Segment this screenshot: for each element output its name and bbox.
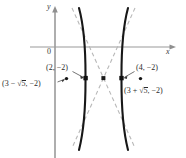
origin-label: 0 — [47, 48, 51, 56]
left-focus-prefix: (3 − — [2, 79, 15, 88]
left-focus-label: (3 − √5, −2) — [2, 80, 41, 88]
y-axis-label: y — [47, 3, 51, 11]
left-vertex-label: (2, −2) — [46, 64, 68, 72]
leader-arrow-right-vertex — [123, 76, 127, 79]
right-focus-label: (3 + √5, −2) — [124, 87, 163, 95]
vertex-marker-left — [83, 76, 87, 80]
hyperbola-figure: y x 0 (2, −2) (4, −2) (3 − √5, −2) (3 + … — [0, 0, 186, 158]
focus-dot-right — [139, 77, 142, 80]
right-focus-suffix: , −2) — [148, 86, 163, 95]
x-axis-arrowhead — [170, 44, 177, 49]
left-focus-radical: √5 — [17, 80, 25, 88]
left-focus-suffix: , −2) — [26, 79, 41, 88]
right-vertex-label: (4, −2) — [136, 64, 158, 72]
leader-right-vertex — [125, 72, 135, 78]
vertex-marker-right — [119, 76, 123, 80]
right-focus-prefix: (3 + — [124, 86, 137, 95]
center-marker — [101, 76, 105, 80]
x-axis-label: x — [166, 48, 170, 56]
focus-dot-left — [65, 77, 68, 80]
right-focus-radical: √5 — [139, 87, 147, 95]
y-axis-arrowhead — [52, 6, 58, 13]
